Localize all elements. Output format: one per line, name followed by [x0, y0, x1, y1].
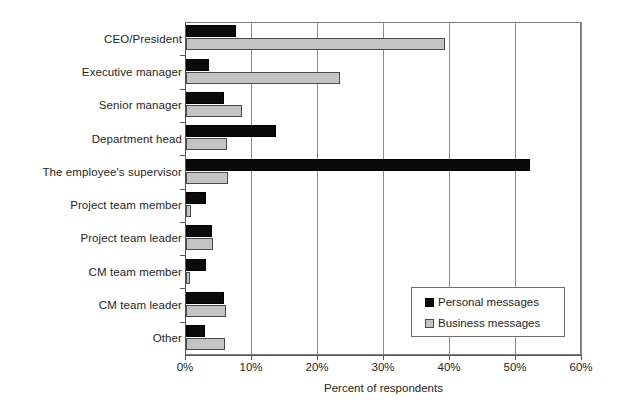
- x-axis-tick: [317, 355, 318, 360]
- bar-personal: [186, 225, 212, 237]
- x-axis-tick-label: 30%: [353, 361, 413, 373]
- y-axis-tick: [180, 255, 185, 256]
- chart-row: Project team member: [0, 189, 622, 222]
- y-axis-tick: [180, 155, 185, 156]
- bar-business: [186, 72, 340, 84]
- x-axis-tick-label: 20%: [287, 361, 347, 373]
- bar-group: [186, 222, 586, 255]
- chart-row: Senior manager: [0, 89, 622, 122]
- bar-personal: [186, 259, 206, 271]
- x-axis-tick: [449, 355, 450, 360]
- bar-business: [186, 138, 227, 150]
- y-axis-category-label: CM team leader: [99, 299, 182, 311]
- x-axis-title: Percent of respondents: [185, 382, 582, 394]
- y-axis-tick: [180, 55, 185, 56]
- x-axis-tick: [185, 355, 186, 360]
- x-axis-tick-label: 60%: [551, 361, 611, 373]
- y-axis-category-label: Department head: [92, 133, 182, 145]
- bar-personal: [186, 125, 276, 137]
- x-axis-tick: [251, 355, 252, 360]
- bar-personal: [186, 159, 530, 171]
- legend-swatch-business-icon: [425, 319, 434, 328]
- legend-item-personal: Personal messages: [425, 295, 539, 309]
- x-axis-tick-label: 10%: [221, 361, 281, 373]
- x-axis-tick: [515, 355, 516, 360]
- bar-group: [186, 122, 586, 155]
- legend-item-business: Business messages: [425, 316, 540, 330]
- y-axis-tick: [180, 89, 185, 90]
- bar-business: [186, 105, 242, 117]
- chart-row: Project team leader: [0, 222, 622, 255]
- bar-business: [186, 38, 445, 50]
- x-axis-tick: [383, 355, 384, 360]
- bar-personal: [186, 92, 224, 104]
- chart-row: Department head: [0, 122, 622, 155]
- bar-business: [186, 172, 228, 184]
- bar-group: [186, 55, 586, 88]
- x-axis-tick-label: 0%: [155, 361, 215, 373]
- legend: Personal messages Business messages: [411, 287, 565, 337]
- bar-personal: [186, 192, 206, 204]
- chart-row: Executive manager: [0, 55, 622, 88]
- y-axis-category-label: Project team leader: [80, 232, 182, 244]
- y-axis-tick: [180, 222, 185, 223]
- y-axis-category-label: Executive manager: [82, 66, 182, 78]
- y-axis-category-label: Other: [153, 332, 182, 344]
- legend-label-business: Business messages: [438, 317, 540, 329]
- bar-chart: CEO/PresidentExecutive managerSenior man…: [0, 0, 622, 418]
- bar-group: [186, 255, 586, 288]
- y-axis-tick: [180, 288, 185, 289]
- y-axis-category-label: CM team member: [89, 266, 182, 278]
- legend-label-personal: Personal messages: [438, 296, 539, 308]
- legend-swatch-personal-icon: [425, 298, 434, 307]
- y-axis-tick: [180, 122, 185, 123]
- y-axis-category-label: The employee's supervisor: [42, 166, 182, 178]
- bar-group: [186, 22, 586, 55]
- y-axis-category-label: CEO/President: [104, 33, 182, 45]
- x-axis-tick-label: 40%: [419, 361, 479, 373]
- bar-business: [186, 305, 226, 317]
- x-axis-tick-label: 50%: [485, 361, 545, 373]
- bar-group: [186, 89, 586, 122]
- y-axis-tick: [180, 189, 185, 190]
- y-axis-category-label: Project team member: [70, 199, 182, 211]
- bar-group: [186, 189, 586, 222]
- bar-group: [186, 155, 586, 188]
- bar-personal: [186, 325, 205, 337]
- bar-personal: [186, 292, 224, 304]
- bar-personal: [186, 25, 236, 37]
- y-axis-category-label: Senior manager: [99, 99, 182, 111]
- chart-row: CM team member: [0, 255, 622, 288]
- bar-personal: [186, 59, 209, 71]
- chart-row: The employee's supervisor: [0, 155, 622, 188]
- bar-business: [186, 338, 225, 350]
- x-axis-tick: [581, 355, 582, 360]
- bar-business: [186, 272, 190, 284]
- bar-business: [186, 238, 213, 250]
- y-axis-tick: [180, 322, 185, 323]
- bar-business: [186, 205, 191, 217]
- chart-row: CEO/President: [0, 22, 622, 55]
